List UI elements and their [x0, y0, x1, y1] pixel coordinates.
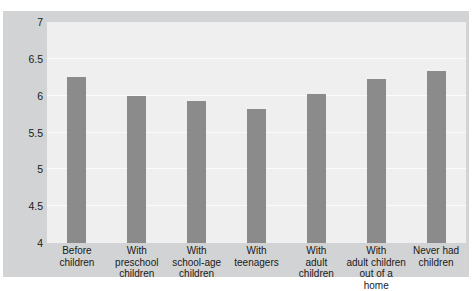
x-axis: BeforechildrenWithpreschoolchildrenWiths…: [47, 245, 466, 289]
y-axis-tick-label: 7: [9, 17, 43, 27]
x-axis-tick-label: Withteenagers: [227, 245, 287, 268]
x-axis-tick-label-line: adult children: [346, 257, 406, 269]
x-axis-tick-label: Withadult childrenout of a home: [346, 245, 406, 291]
bar: [427, 71, 446, 243]
x-axis-tick-label-line: adult: [286, 257, 346, 269]
y-axis-tick-label: 5: [9, 164, 43, 174]
x-axis-tick-label-line: With: [346, 245, 406, 257]
x-axis-tick-label-line: children: [406, 257, 466, 269]
x-axis-tick-label-line: out of a home: [346, 268, 406, 291]
x-axis-tick-label: Withpreschoolchildren: [107, 245, 167, 280]
x-axis-tick-label-line: teenagers: [227, 257, 287, 269]
y-axis-tick-label: 4.5: [9, 201, 43, 211]
x-axis-tick-label: Beforechildren: [47, 245, 107, 268]
x-axis-tick-label-line: preschool: [107, 257, 167, 269]
y-axis: 44.555.566.57: [3, 22, 43, 243]
bar: [307, 94, 326, 243]
plot-area: [47, 22, 466, 243]
x-axis-tick-label-line: Never had: [406, 245, 466, 257]
x-axis-tick-label-line: children: [286, 268, 346, 280]
bar: [187, 101, 206, 243]
x-axis-tick-label-line: With: [107, 245, 167, 257]
bar: [127, 96, 146, 243]
bar: [67, 77, 86, 243]
bar: [367, 79, 386, 243]
gridline: [47, 95, 466, 96]
y-axis-tick-label: 6: [9, 91, 43, 101]
x-axis-tick-label-line: children: [47, 257, 107, 269]
y-axis-tick-label: 6.5: [9, 54, 43, 64]
x-axis-tick-label-line: Before: [47, 245, 107, 257]
clipped-header-strip: [0, 0, 476, 6]
x-axis-tick-label-line: children: [167, 268, 227, 280]
chart-frame: 44.555.566.57 BeforechildrenWithpreschoo…: [3, 11, 469, 277]
x-axis-tick-label-line: With: [286, 245, 346, 257]
y-axis-tick-label: 5.5: [9, 128, 43, 138]
x-axis-tick-label-line: school-age: [167, 257, 227, 269]
x-axis-tick-label: Never hadchildren: [406, 245, 466, 268]
x-axis-tick-label-line: With: [227, 245, 287, 257]
x-axis-tick-label-line: With: [167, 245, 227, 257]
gridline: [47, 58, 466, 59]
x-axis-tick-label: Withschool-agechildren: [167, 245, 227, 280]
bar: [247, 109, 266, 243]
x-axis-tick-label-line: children: [107, 268, 167, 280]
x-axis-tick-label: Withadultchildren: [286, 245, 346, 280]
y-axis-tick-label: 4: [9, 238, 43, 248]
